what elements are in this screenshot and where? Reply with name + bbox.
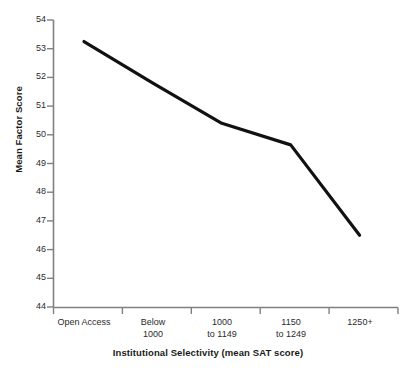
x-tick-label-below-1000: Below 1000 — [117, 317, 189, 340]
data-series-line — [84, 42, 360, 236]
x-tick-label-1150-1249: 1150 to 1249 — [255, 317, 327, 340]
y-tick-label: 49 — [22, 159, 46, 168]
y-tick-label: 50 — [22, 130, 46, 139]
y-tick-label: 45 — [22, 273, 46, 282]
y-tick-label: 47 — [22, 216, 46, 225]
y-axis-ticks — [47, 20, 54, 307]
x-tick-label-1000-1149: 1000 to 1149 — [186, 317, 258, 340]
y-tick-label: 46 — [22, 245, 46, 254]
y-tick-label: 44 — [22, 302, 46, 311]
y-tick-label: 53 — [22, 44, 46, 53]
chart-container: Mean Factor Score 54 53 52 51 — [0, 0, 416, 371]
x-axis-title: Institutional Selectivity (mean SAT scor… — [0, 347, 416, 358]
x-tick-label-1250-plus: 1250+ — [324, 317, 396, 329]
y-tick-label: 52 — [22, 72, 46, 81]
y-tick-label: 48 — [22, 187, 46, 196]
x-axis-ticks — [54, 308, 399, 315]
plot-area — [0, 0, 416, 371]
x-tick-label-open-access: Open Access — [48, 317, 120, 329]
y-tick-label: 54 — [22, 15, 46, 24]
y-tick-label: 51 — [22, 101, 46, 110]
